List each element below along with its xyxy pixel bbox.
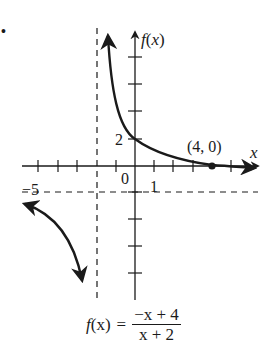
formula-fraction: −x + 4 x + 2 [132, 306, 181, 343]
formula-lhs: f(x) [86, 315, 111, 335]
formula-denominator: x + 2 [139, 325, 174, 343]
function-formula: f(x) = −x + 4 x + 2 [86, 306, 181, 343]
formula-numerator: −x + 4 [132, 306, 181, 325]
y-axis-label: f(x) [141, 30, 165, 49]
curve-right-branch [108, 36, 254, 168]
y-tick-label-2: 2 [115, 131, 123, 148]
point-label: (4, 0) [187, 138, 222, 156]
origin-label: 0 [121, 170, 129, 187]
x-tick-label-1: 1 [150, 178, 158, 195]
point-4-0 [208, 162, 215, 169]
x-axis-label: x [249, 143, 258, 162]
formula-equals: = [117, 315, 127, 335]
curve-left-branch [25, 204, 82, 280]
x-tick-label-neg5: −5 [22, 181, 39, 198]
